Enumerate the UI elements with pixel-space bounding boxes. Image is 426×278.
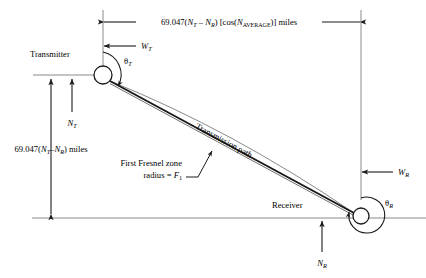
fresnel-callout-group: First Fresnel zone radius = F1: [120, 151, 212, 181]
receiver-label: Receiver: [272, 200, 303, 210]
transmission-path-label: Transmission path: [194, 121, 255, 160]
nt-dimension-group: NT: [66, 79, 77, 129]
figure-canvas: 69.047(NT – NR) [cos(NAVERAGE)] miles WT…: [0, 0, 426, 278]
wr-dimension-group: WR: [362, 167, 409, 178]
transmitter-node: Transmitter: [30, 49, 112, 84]
theta-r-label: θR: [385, 198, 393, 209]
fresnel-leader-line: [186, 151, 212, 177]
nr-label: NR: [316, 258, 327, 269]
vertical-dimension-label: 69.047(NT–NR) miles: [14, 144, 88, 155]
horizontal-dimension-label: 69.047(NT – NR) [cos(NAVERAGE)] miles: [161, 17, 298, 28]
theta-t-label: θT: [124, 56, 132, 67]
receiver-circle: [353, 208, 369, 224]
reference-lines: [32, 10, 426, 218]
nr-dimension-group: NR: [316, 221, 327, 269]
wt-dimension-group: WT: [104, 41, 152, 52]
nt-label: NT: [66, 118, 77, 129]
transmission-path-diagram: 69.047(NT – NR) [cos(NAVERAGE)] miles WT…: [0, 0, 426, 278]
receiver-node: Receiver: [272, 200, 369, 224]
transmitter-circle: [94, 66, 112, 84]
fresnel-label-line2: radius = F1: [144, 170, 183, 181]
horizontal-dimension-group: 69.047(NT – NR) [cos(NAVERAGE)] miles: [104, 17, 360, 28]
wr-label: WR: [398, 167, 409, 178]
vertical-dimension-group: 69.047(NT–NR) miles: [14, 79, 88, 214]
wt-label: WT: [141, 41, 152, 52]
fresnel-label-line1: First Fresnel zone: [120, 158, 182, 168]
transmitter-label: Transmitter: [30, 49, 70, 59]
